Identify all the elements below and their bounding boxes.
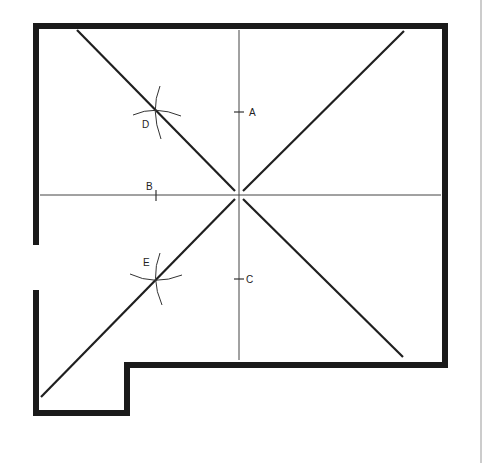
label-a: A	[249, 107, 256, 118]
diagonals	[41, 30, 404, 397]
floor-plan-diagram: A B C D E	[0, 0, 487, 463]
label-b: B	[146, 181, 153, 192]
label-d: D	[142, 119, 149, 130]
diagonal-bottom-right	[243, 199, 403, 357]
label-e: E	[143, 257, 150, 268]
label-c: C	[246, 274, 253, 285]
diagonal-top-right	[243, 31, 404, 191]
wall-main	[36, 26, 445, 413]
room-walls	[36, 26, 445, 413]
